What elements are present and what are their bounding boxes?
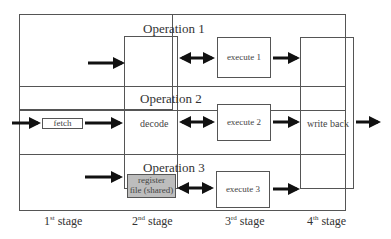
- arrows-layer: [0, 0, 391, 239]
